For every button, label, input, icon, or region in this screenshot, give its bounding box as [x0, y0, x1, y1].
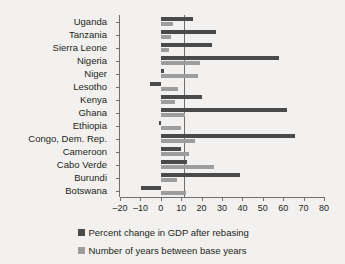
bar-years-between	[161, 152, 190, 156]
bar-gdp-change	[141, 186, 160, 190]
x-axis-tick-label: –20	[112, 203, 127, 213]
bar-gdp-change	[161, 69, 164, 73]
y-axis-tick	[116, 100, 120, 101]
bar-group	[120, 132, 324, 145]
y-axis-tick	[116, 22, 120, 23]
bar-group	[120, 15, 324, 28]
x-axis-tick	[202, 197, 203, 201]
bar-years-between	[161, 178, 177, 182]
x-axis-tick	[304, 197, 305, 201]
bar-gdp-change	[161, 134, 296, 138]
bar-group	[120, 171, 324, 184]
bar-gdp-change	[161, 30, 216, 34]
bar-gdp-change	[161, 173, 241, 177]
x-axis-tick-label: 70	[299, 203, 309, 213]
bar-group	[120, 28, 324, 41]
y-axis-tick	[116, 61, 120, 62]
bar-gdp-change	[161, 147, 181, 151]
bar-rows	[120, 15, 324, 197]
legend-item: Percent change in GDP after rebasing	[78, 226, 268, 239]
bar-years-between	[161, 22, 173, 26]
bar-gdp-change	[161, 108, 287, 112]
y-axis-tick	[116, 191, 120, 192]
y-axis-tick	[116, 113, 120, 114]
y-axis-tick-label: Ghana	[0, 106, 112, 119]
bar-group	[120, 158, 324, 171]
chart-legend: Percent change in GDP after rebasingNumb…	[0, 222, 345, 258]
bar-gdp-change	[161, 17, 194, 21]
y-axis-tick-label: Ethiopia	[0, 119, 112, 132]
bar-group	[120, 184, 324, 197]
bar-years-between	[161, 126, 181, 130]
x-axis-tick	[222, 197, 223, 201]
bar-group	[120, 67, 324, 80]
x-axis-tick-label: 0	[158, 203, 163, 213]
x-axis-tick-label: 60	[278, 203, 288, 213]
bar-group	[120, 145, 324, 158]
y-axis-tick-label: Kenya	[0, 93, 112, 106]
plot-area	[120, 15, 324, 197]
y-axis-tick	[116, 48, 120, 49]
legend-item: Number of years between base years	[78, 244, 268, 257]
y-axis-tick	[116, 87, 120, 88]
x-axis-tick	[242, 197, 243, 201]
x-axis-tick	[181, 197, 182, 201]
y-axis-tick	[116, 139, 120, 140]
y-axis-tick-label: Uganda	[0, 15, 112, 28]
bar-gdp-change	[161, 160, 188, 164]
y-axis-tick-label: Tanzania	[0, 28, 112, 41]
y-axis-tick-label: Cameroon	[0, 145, 112, 158]
y-axis-tick-label: Niger	[0, 67, 112, 80]
y-axis-tick-label: Lesotho	[0, 80, 112, 93]
y-axis-tick	[116, 152, 120, 153]
bar-group	[120, 54, 324, 67]
x-axis-tick	[263, 197, 264, 201]
y-axis-tick-label: Congo, Dem. Rep.	[0, 132, 112, 145]
x-axis-tick-label: –10	[133, 203, 148, 213]
legend-swatch-icon	[78, 229, 85, 236]
y-axis-tick	[116, 35, 120, 36]
x-axis-tick	[283, 197, 284, 201]
y-axis-labels: UgandaTanzaniaSierra LeoneNigeriaNigerLe…	[0, 15, 112, 197]
bar-years-between	[161, 87, 178, 91]
x-axis-tick	[161, 197, 162, 201]
y-axis-tick-label: Botswana	[0, 184, 112, 197]
y-axis-tick	[116, 126, 120, 127]
y-axis-tick	[116, 178, 120, 179]
bar-years-between	[161, 48, 169, 52]
legend-label: Number of years between base years	[89, 245, 247, 256]
x-axis-tick-label: 50	[258, 203, 268, 213]
y-axis-tick-label: Sierra Leone	[0, 41, 112, 54]
bar-group	[120, 80, 324, 93]
bar-years-between	[161, 191, 187, 195]
bar-gdp-change	[161, 56, 279, 60]
bar-years-between	[161, 165, 214, 169]
x-axis-tick-label: 80	[319, 203, 329, 213]
y-axis-tick-label: Cabo Verde	[0, 158, 112, 171]
y-axis-tick	[116, 165, 120, 166]
legend-swatch-icon	[78, 247, 85, 254]
bar-gdp-change	[159, 121, 161, 125]
bar-gdp-change	[161, 95, 202, 99]
bar-gdp-change	[161, 43, 212, 47]
x-axis-tick-label: 30	[217, 203, 227, 213]
bar-years-between	[161, 113, 185, 117]
x-axis-tick	[140, 197, 141, 201]
bar-years-between	[161, 139, 196, 143]
bar-group	[120, 41, 324, 54]
legend-label: Percent change in GDP after rebasing	[89, 227, 249, 238]
bar-gdp-change	[150, 82, 161, 86]
y-axis-tick	[116, 74, 120, 75]
y-axis-tick-label: Burundi	[0, 171, 112, 184]
bar-years-between	[161, 100, 175, 104]
bar-years-between	[161, 74, 198, 78]
x-axis-tick-label: 10	[176, 203, 186, 213]
x-axis-tick	[324, 197, 325, 201]
bar-group	[120, 119, 324, 132]
bar-group	[120, 93, 324, 106]
x-axis-tick-label: 40	[237, 203, 247, 213]
bar-chart: UgandaTanzaniaSierra LeoneNigeriaNigerLe…	[0, 0, 345, 264]
x-axis-tick-label: 20	[197, 203, 207, 213]
y-axis-tick-label: Nigeria	[0, 54, 112, 67]
bar-group	[120, 106, 324, 119]
